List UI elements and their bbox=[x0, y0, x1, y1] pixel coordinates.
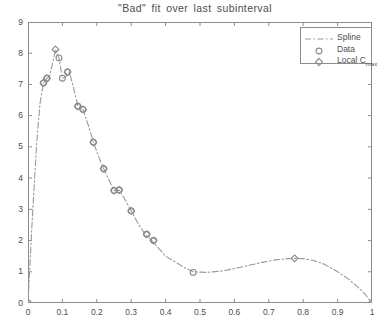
y-tick-label: 3 bbox=[3, 204, 23, 214]
y-tick-label: 0 bbox=[3, 298, 23, 308]
figure-root: "Bad" fit over last subinterval 00.10.20… bbox=[0, 0, 390, 332]
y-tick-label: 5 bbox=[3, 141, 23, 151]
x-tick-label: 1 bbox=[357, 307, 387, 317]
legend-label-subscript: max bbox=[366, 61, 377, 67]
y-tick-label: 1 bbox=[3, 266, 23, 276]
y-tick-label: 6 bbox=[3, 110, 23, 120]
spline-line-icon bbox=[303, 31, 335, 43]
y-tick-label: 9 bbox=[3, 17, 23, 27]
x-tick-label: 0.3 bbox=[116, 307, 146, 317]
x-tick-label: 0.6 bbox=[219, 307, 249, 317]
spline-curve bbox=[28, 49, 372, 303]
data-point-marker bbox=[190, 270, 196, 276]
diamond-marker-icon bbox=[303, 54, 335, 66]
page-title: "Bad" fit over last subinterval bbox=[0, 2, 390, 14]
x-tick-label: 0.8 bbox=[288, 307, 318, 317]
x-tick-label: 0.4 bbox=[151, 307, 181, 317]
x-tick-label: 0.7 bbox=[254, 307, 284, 317]
x-tick-label: 0 bbox=[13, 307, 43, 317]
y-tick-label: 4 bbox=[3, 173, 23, 183]
x-tick-label: 0.2 bbox=[82, 307, 112, 317]
legend-label: Spline bbox=[337, 31, 361, 43]
legend-item: Spline bbox=[301, 31, 373, 43]
legend: SplineDataLocal Cmax bbox=[300, 27, 372, 64]
legend-label: Local Cmax bbox=[337, 54, 377, 70]
x-tick-label: 0.1 bbox=[47, 307, 77, 317]
circle-marker-icon bbox=[303, 43, 335, 55]
legend-label: Data bbox=[337, 43, 355, 55]
x-tick-label: 0.9 bbox=[323, 307, 353, 317]
y-tick-label: 8 bbox=[3, 48, 23, 58]
y-tick-label: 7 bbox=[3, 79, 23, 89]
x-tick-label: 0.5 bbox=[185, 307, 215, 317]
legend-item: Data bbox=[301, 43, 373, 55]
legend-item: Local Cmax bbox=[301, 54, 373, 66]
y-tick-label: 2 bbox=[3, 235, 23, 245]
